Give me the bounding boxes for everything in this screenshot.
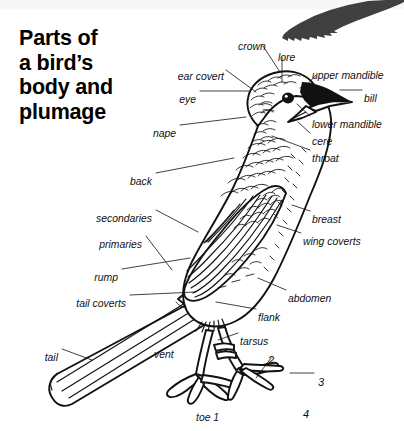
label-lower_mandible: lower mandible [312,119,382,130]
label-wing_coverts: wing coverts [303,236,361,247]
title-line-4: plumage [19,100,179,125]
label-flank: flank [258,312,280,323]
label-bill: bill [364,93,377,104]
label-primaries: primaries [99,239,142,250]
bird-anatomy-diagram: .ol { fill:#ffffff; stroke:#111111; stro… [0,0,404,431]
label-tail: tail [45,352,58,363]
label-tarsus: tarsus [240,336,268,347]
label-toe_3: 3 [318,376,324,388]
label-back: back [130,176,152,187]
label-tail_coverts: tail coverts [76,298,126,309]
label-toe_2: 2 [268,354,274,366]
label-rump: rump [94,272,118,283]
label-ear_covert: ear covert [178,71,224,82]
label-vent: vent [154,349,174,360]
tarsus-rear [196,330,213,376]
label-upper_mandible: upper mandible [312,70,384,81]
label-throat: throat [312,153,339,164]
label-breast: breast [312,214,341,225]
label-toe_1: toe 1 [196,412,219,423]
label-toe_4: 4 [303,408,309,420]
label-secondaries: secondaries [96,213,152,224]
label-cere: cere [312,136,332,147]
bird-wing-silhouette-icon [282,0,404,41]
label-lore: lore [278,52,295,63]
title-line-2: a bird’s [19,51,179,76]
label-eye: eye [179,94,196,105]
label-nape: nape [153,128,176,139]
eye-marking [282,93,294,104]
page-title: Parts of a bird’s body and plumage [19,26,179,124]
label-abdomen: abdomen [288,293,331,304]
label-crown: crown [238,41,266,52]
title-line-1: Parts of [19,26,179,51]
title-line-3: body and [19,75,179,100]
